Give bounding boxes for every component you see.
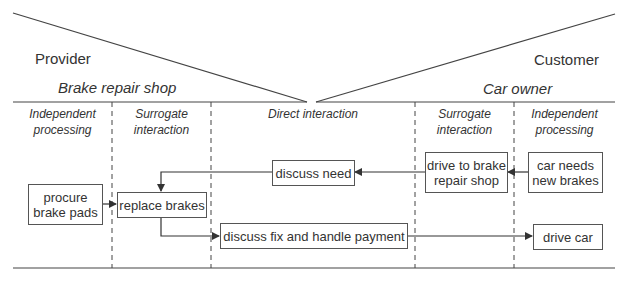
lane-customer-independent: Independent processing bbox=[514, 106, 615, 138]
lane-label-line: Independent bbox=[13, 106, 112, 122]
provider-label: Provider bbox=[35, 50, 91, 67]
flow-discuss-need-to-replace bbox=[161, 172, 272, 191]
lane-label-line: Surrogate bbox=[112, 106, 211, 122]
step-label: drive car bbox=[543, 230, 593, 245]
step-procure-brake-pads: procure brake pads bbox=[28, 184, 103, 225]
step-label: repair shop bbox=[434, 173, 499, 188]
step-discuss-need: discuss need bbox=[272, 160, 355, 186]
customer-organization: Car owner bbox=[483, 80, 552, 97]
lane-label-line: interaction bbox=[415, 122, 514, 138]
step-label: new brakes bbox=[532, 173, 598, 188]
lane-label-line: processing bbox=[13, 122, 112, 138]
lane-direct: Direct interaction bbox=[211, 106, 415, 122]
step-discuss-fix-and-payment: discuss fix and handle payment bbox=[220, 223, 408, 249]
step-label: discuss fix and handle payment bbox=[223, 229, 404, 244]
step-label: drive to brake bbox=[427, 158, 506, 173]
lane-label-line: Independent bbox=[514, 106, 615, 122]
step-car-needs-brakes: car needs new brakes bbox=[528, 152, 603, 193]
flow-replace-to-discuss-fix bbox=[161, 217, 219, 236]
provider-organization: Brake repair shop bbox=[58, 79, 176, 96]
lane-provider-independent: Independent processing bbox=[13, 106, 112, 138]
step-drive-to-shop: drive to brake repair shop bbox=[425, 152, 508, 193]
lane-label-line: Surrogate bbox=[415, 106, 514, 122]
step-label: discuss need bbox=[276, 166, 352, 181]
lane-label-line: processing bbox=[514, 122, 615, 138]
step-label: replace brakes bbox=[119, 198, 204, 213]
step-label: procure bbox=[43, 190, 87, 205]
lane-provider-surrogate: Surrogate interaction bbox=[112, 106, 211, 138]
customer-label: Customer bbox=[534, 51, 599, 68]
step-drive-car: drive car bbox=[533, 224, 603, 250]
step-replace-brakes: replace brakes bbox=[117, 192, 207, 218]
lane-label-line: interaction bbox=[112, 122, 211, 138]
lane-customer-surrogate: Surrogate interaction bbox=[415, 106, 514, 138]
step-label: car needs bbox=[537, 158, 594, 173]
step-label: brake pads bbox=[33, 205, 97, 220]
lane-label-line: Direct interaction bbox=[211, 106, 415, 122]
